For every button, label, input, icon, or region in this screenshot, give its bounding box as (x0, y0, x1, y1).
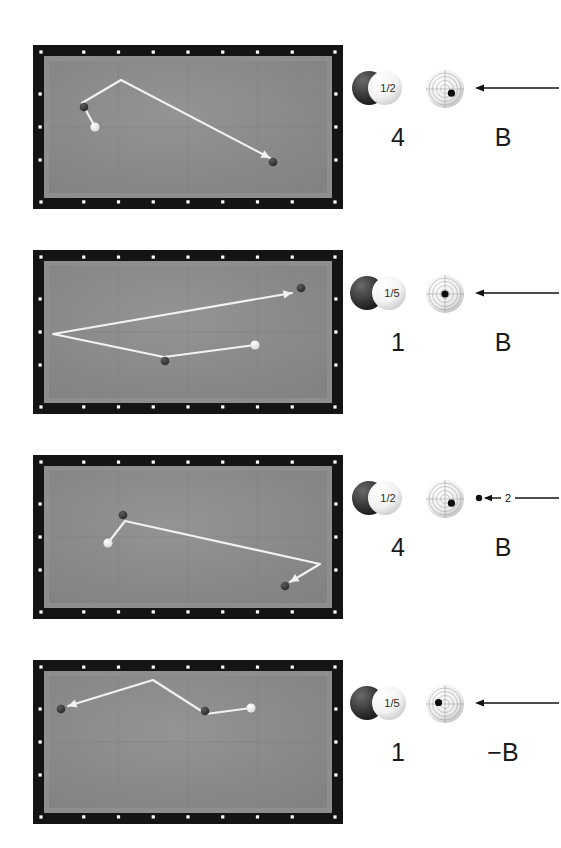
object-ball-1 (80, 103, 89, 112)
left-value-label: 1 (368, 738, 428, 767)
diagram-row: 1/51−B (0, 660, 561, 848)
ball-pair: 1/5 (348, 678, 418, 730)
hit-fraction-diagram: 1/5 (348, 268, 418, 320)
arrow-box (473, 686, 559, 720)
arrow-box (473, 276, 559, 310)
left-value-label: 4 (368, 123, 428, 152)
arrow-tail-dot (476, 495, 482, 501)
tip-contact-diagram (423, 477, 467, 521)
cue-ball (90, 122, 99, 131)
shot-spec: 1/51B (343, 250, 561, 414)
hit-fraction-diagram: 1/2 (348, 473, 418, 525)
right-value-label: −B (473, 738, 533, 767)
left-value-label: 1 (368, 328, 428, 357)
hit-fraction-label: 1/2 (380, 82, 395, 94)
pool-table (33, 455, 343, 619)
tip-contact-point (448, 500, 455, 507)
ball-pair: 1/5 (348, 268, 418, 320)
arrow-head (475, 699, 484, 706)
left-value-label: 4 (368, 533, 428, 562)
cue-ball (250, 340, 259, 349)
table-wrapper (33, 45, 343, 209)
tip-contact-diagram (423, 272, 467, 316)
tip-ball (423, 67, 467, 111)
table-wrapper (33, 250, 343, 414)
arrow-box: 2 (473, 481, 559, 515)
object-ball-2 (281, 582, 290, 591)
object-ball-1 (119, 511, 128, 520)
diagram-row: 1/224B (0, 455, 561, 660)
shot-spec: 1/224B (343, 455, 561, 619)
tip-contact-point (448, 90, 455, 97)
ball-pair: 1/2 (348, 473, 418, 525)
speed-arrow: 2 (473, 481, 559, 515)
pool-table (33, 45, 343, 209)
hit-fraction-label: 1/5 (384, 287, 399, 299)
pool-table (33, 660, 343, 824)
object-ball-1 (201, 707, 210, 716)
cue-ball (103, 538, 112, 547)
table-wrapper (33, 455, 343, 619)
tip-ball (423, 682, 467, 726)
tip-ball (423, 272, 467, 316)
tip-ball (423, 477, 467, 521)
speed-label: 2 (505, 492, 511, 504)
shot-spec: 1/51−B (343, 660, 561, 824)
diagram-row: 1/51B (0, 250, 561, 455)
arrow-head (475, 84, 484, 91)
arrow-head (475, 289, 484, 296)
object-ball-2 (269, 158, 278, 167)
ball-pair: 1/2 (348, 63, 418, 115)
diagram-row: 1/24B (0, 45, 561, 250)
speed-arrow (473, 71, 559, 105)
hit-fraction-diagram: 1/2 (348, 63, 418, 115)
hit-fraction-label: 1/2 (380, 492, 395, 504)
pool-table (33, 250, 343, 414)
arrow-box (473, 71, 559, 105)
tip-contact-point (435, 699, 442, 706)
right-value-label: B (473, 533, 533, 562)
right-value-label: B (473, 328, 533, 357)
tip-contact-diagram (423, 682, 467, 726)
cue-ball (246, 703, 255, 712)
hit-fraction-diagram: 1/5 (348, 678, 418, 730)
hit-fraction-label: 1/5 (384, 697, 399, 709)
object-ball-1 (161, 357, 170, 366)
object-ball-2 (57, 705, 66, 714)
object-ball-2 (297, 284, 306, 293)
arrow-head (484, 495, 492, 501)
right-value-label: B (473, 123, 533, 152)
speed-arrow (473, 276, 559, 310)
tip-contact-diagram (423, 67, 467, 111)
table-wrapper (33, 660, 343, 824)
speed-arrow (473, 686, 559, 720)
tip-contact-point (441, 290, 448, 297)
shot-spec: 1/24B (343, 45, 561, 209)
